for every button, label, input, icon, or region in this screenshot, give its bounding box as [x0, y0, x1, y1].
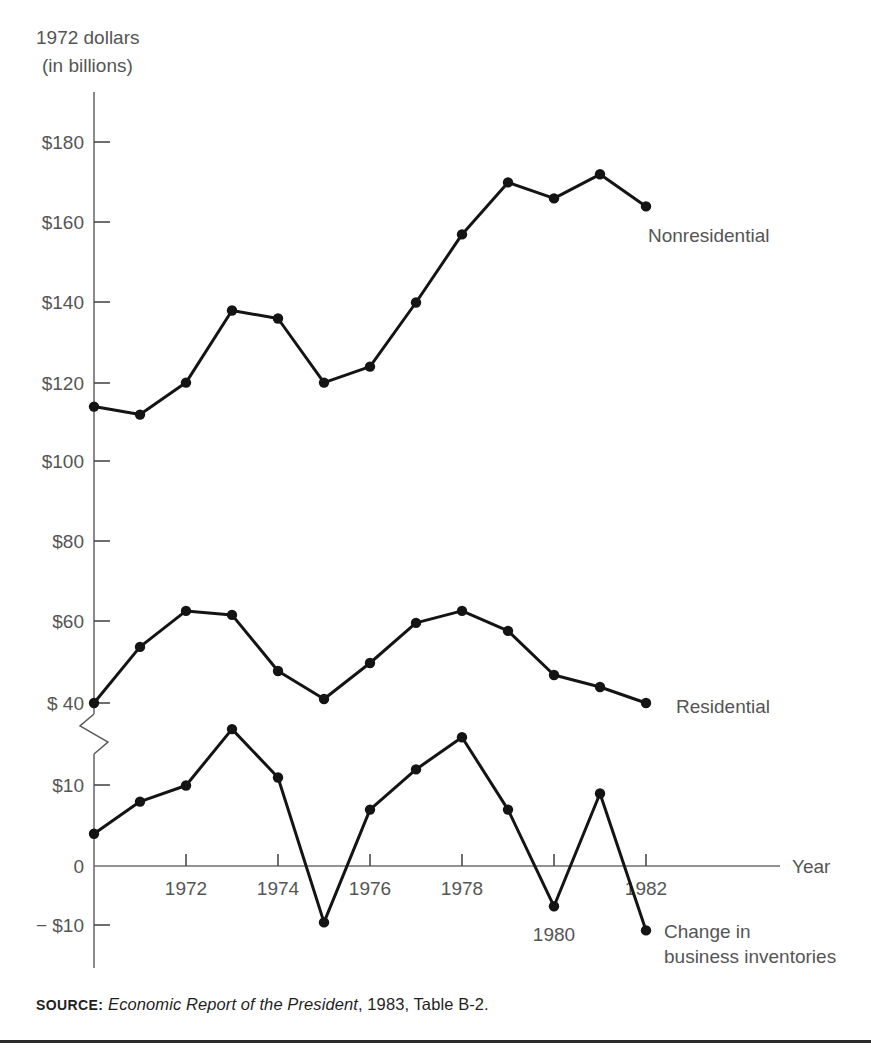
data-point-nonresidential-1978 [457, 229, 467, 239]
data-point-nonresidential-1981 [595, 169, 605, 179]
y-tick-marks-upper [94, 142, 110, 703]
series-layer [89, 169, 651, 936]
data-point-inventories-1981 [595, 788, 605, 798]
data-point-nonresidential-1982 [641, 201, 651, 211]
series-label-inventories-line1: Change in [664, 921, 751, 942]
data-point-nonresidential-1973 [227, 305, 237, 315]
data-point-residential-1981 [595, 682, 605, 692]
bottom-rule-divider [0, 1040, 871, 1043]
figure-chart-investment: $180 $160 $140 $120 $100 $80 $60 $ 40 $1… [0, 0, 871, 1054]
source-rest: , 1983, Table B-2. [358, 995, 489, 1013]
data-point-nonresidential-1980 [549, 193, 559, 203]
data-point-inventories-1975 [319, 917, 329, 927]
data-point-nonresidential-1972 [181, 377, 191, 387]
data-point-inventories-1980 [549, 901, 559, 911]
series-line-residential [94, 611, 646, 703]
series-line-nonresidential [94, 174, 646, 414]
data-point-inventories-1974 [273, 772, 283, 782]
data-point-nonresidential-1971 [135, 409, 145, 419]
data-point-inventories-1979 [503, 804, 513, 814]
data-point-residential-1978 [457, 606, 467, 616]
y-tick-label-0: 0 [73, 856, 84, 877]
x-tick-label-1980: 1980 [533, 924, 575, 945]
series-line-inventories [94, 729, 646, 930]
source-note: SOURCE: Economic Report of the President… [36, 995, 489, 1014]
y-tick-label-100: $100 [42, 451, 84, 472]
y-tick-label-40: $ 40 [47, 693, 84, 714]
data-point-residential-1976 [365, 658, 375, 668]
data-point-inventories-1977 [411, 764, 421, 774]
data-point-inventories-1976 [365, 804, 375, 814]
y-tick-label-120: $120 [42, 373, 84, 394]
x-axis-title: Year [792, 856, 831, 877]
x-tick-label-1972: 1972 [165, 878, 207, 899]
data-point-inventories-1978 [457, 732, 467, 742]
y-tick-label-60: $60 [52, 611, 84, 632]
data-point-inventories-1972 [181, 780, 191, 790]
y-tick-label-negative-10: − $10 [36, 915, 84, 936]
source-title: Economic Report of the President [108, 995, 358, 1013]
data-point-residential-1974 [273, 666, 283, 676]
source-kicker: SOURCE: [36, 997, 103, 1013]
data-point-residential-1971 [135, 642, 145, 652]
data-point-residential-1980 [549, 670, 559, 680]
y-tick-label-140: $140 [42, 292, 84, 313]
data-point-inventories-1971 [135, 796, 145, 806]
data-point-inventories-1970 [89, 829, 99, 839]
y-axis-unit-label-line2: (in billions) [42, 55, 133, 76]
axis-break-zigzag [80, 714, 108, 754]
x-tick-label-1978: 1978 [441, 878, 483, 899]
data-point-residential-1982 [641, 698, 651, 708]
data-point-inventories-1973 [227, 724, 237, 734]
data-point-nonresidential-1975 [319, 377, 329, 387]
series-label-residential: Residential [676, 696, 770, 717]
x-tick-label-1976: 1976 [349, 878, 391, 899]
data-point-residential-1977 [411, 618, 421, 628]
data-point-residential-1979 [503, 626, 513, 636]
data-point-residential-1972 [181, 606, 191, 616]
data-point-nonresidential-1974 [273, 313, 283, 323]
data-point-inventories-1982 [641, 925, 651, 935]
x-tick-label-1974: 1974 [257, 878, 300, 899]
series-label-inventories-line2: business inventories [664, 946, 836, 967]
y-tick-marks-lower [94, 785, 110, 925]
data-point-residential-1973 [227, 610, 237, 620]
data-point-residential-1970 [89, 698, 99, 708]
y-axis-unit-label-line1: 1972 dollars [36, 27, 140, 48]
y-tick-label-10: $10 [52, 775, 84, 796]
data-point-nonresidential-1979 [503, 177, 513, 187]
y-tick-label-180: $180 [42, 132, 84, 153]
chart-svg: $180 $160 $140 $120 $100 $80 $60 $ 40 $1… [0, 0, 871, 1054]
data-point-residential-1975 [319, 694, 329, 704]
y-tick-label-160: $160 [42, 212, 84, 233]
data-point-nonresidential-1977 [411, 297, 421, 307]
series-label-nonresidential: Nonresidential [648, 225, 769, 246]
y-tick-label-80: $80 [52, 531, 84, 552]
data-point-nonresidential-1976 [365, 361, 375, 371]
x-tick-marks [186, 854, 646, 866]
data-point-nonresidential-1970 [89, 401, 99, 411]
